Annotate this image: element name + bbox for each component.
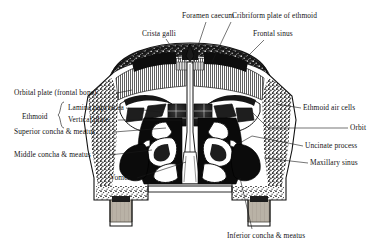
label-orbital-plate-frontal-bone: Orbital plate (frontal bone) [14, 89, 97, 96]
label-cribriform-plate-of-ethmoid: Cribriform plate of ethmoid [232, 12, 317, 19]
label-orbit: Orbit [350, 124, 366, 131]
label-crista-galli: Crista galli [142, 30, 176, 37]
label-middle-concha-and-meatus: Middle concha & meatus [14, 151, 91, 158]
label-lamina-papyracea: Lamina papyracea [68, 104, 124, 111]
anatomical-figure: Crista galli Foramen caecum Cribriform p… [0, 0, 380, 247]
label-superior-concha-and-meatus: Superior concha & meatus [14, 128, 95, 135]
label-ethmoid-group: Ethmoid [22, 112, 47, 121]
label-vertical-plate: Vertical plate [68, 116, 109, 123]
label-maxillary-sinus: Maxillary sinus [310, 159, 358, 166]
label-vomer: Vomer [110, 174, 130, 181]
label-inferior-concha-and-meatus: Inferior concha & meatus [227, 232, 305, 239]
label-frontal-sinus: Frontal sinus [253, 30, 293, 37]
label-uncinate-process: Uncinate process [305, 142, 357, 149]
coronal-section-illustration [0, 0, 380, 247]
label-foramen-caecum: Foramen caecum [182, 12, 234, 19]
label-ethmoid-air-cells: Ethmoid air cells [303, 104, 355, 111]
